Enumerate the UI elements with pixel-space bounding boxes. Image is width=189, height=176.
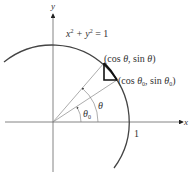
- x-axis-label: x: [183, 117, 188, 127]
- arc-segment: [104, 63, 117, 80]
- point-theta0-label: (cos θ0, sin θ0): [118, 75, 176, 87]
- y-axis-label: y: [50, 1, 55, 11]
- ray-theta: [53, 63, 104, 122]
- angle-arc-theta0: [77, 107, 81, 122]
- angle-theta-label: θ: [98, 100, 103, 111]
- unit-circle-diagram: y x x2 + y2 = 1 (cos θ, sin θ) (cos θ0, …: [0, 0, 189, 176]
- point-theta-label: (cos θ, sin θ): [104, 53, 156, 65]
- circle-equation: x2 + y2 = 1: [65, 28, 108, 39]
- radius-label: 1: [134, 128, 139, 139]
- angle-theta0-label: θ0: [83, 108, 91, 120]
